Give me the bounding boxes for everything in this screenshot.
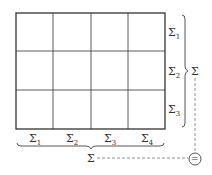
row-total: Σ: [191, 66, 199, 77]
col-sum-3: Σ3: [104, 133, 116, 149]
col-total: Σ: [87, 153, 95, 164]
row-sum-1: Σ1: [168, 27, 180, 43]
grid: [16, 13, 165, 129]
col-sum-4: Σ4: [141, 133, 153, 149]
row-sum-3: Σ3: [168, 104, 180, 120]
row-sum-2: Σ2: [168, 66, 180, 82]
right-brace: [182, 15, 188, 127]
col-sum-1: Σ1: [29, 133, 41, 149]
equals-sign: =: [191, 154, 199, 165]
col-sum-2: Σ2: [66, 133, 78, 149]
